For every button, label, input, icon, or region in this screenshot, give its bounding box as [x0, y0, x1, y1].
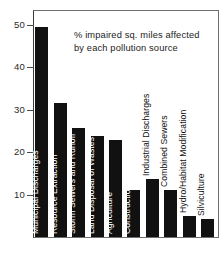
y-axis-tick-label: 40 — [1, 62, 25, 72]
y-axis-tick-label: 30 — [1, 105, 25, 115]
bar-category-label: Hydro/Habitat Modification — [182, 63, 200, 213]
bar[interactable] — [183, 216, 196, 237]
bar-category-label: Industrial Discharges — [145, 26, 163, 176]
y-axis-tick — [27, 152, 34, 153]
y-axis-tick-label: 20 — [1, 147, 25, 157]
y-axis-tick-label: 50 — [1, 20, 25, 30]
y-axis-tick — [27, 25, 34, 26]
bar[interactable] — [201, 219, 214, 237]
bar-series: Municipal Discharges Resource Extraction… — [34, 19, 218, 237]
bar[interactable] — [164, 190, 177, 237]
bar[interactable] — [72, 128, 85, 237]
bar[interactable] — [146, 179, 159, 237]
bar[interactable] — [127, 190, 140, 237]
bar[interactable] — [109, 140, 122, 237]
bar[interactable] — [91, 136, 104, 237]
bar[interactable] — [54, 103, 67, 237]
y-axis-tick — [27, 195, 34, 196]
bar[interactable] — [35, 27, 48, 237]
bar-category-label: Combined Sewers — [163, 37, 181, 187]
bar-chart: 50 40 30 20 10 % impaired sq. miles affe… — [0, 0, 222, 256]
y-axis-tick — [27, 110, 34, 111]
y-axis-tick — [27, 67, 34, 68]
bar-category-label: Silviculture — [200, 66, 218, 216]
y-axis-tick-label: 10 — [1, 190, 25, 200]
